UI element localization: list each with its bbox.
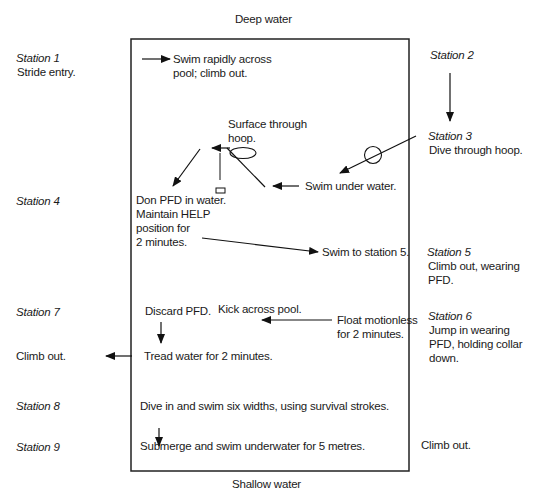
float-1: Float motionless xyxy=(337,313,418,327)
station-6-text-1: Jump in wearing xyxy=(429,323,510,337)
kick-across-pool: Kick across pool. xyxy=(218,302,302,316)
don-pfd-4: 2 minutes. xyxy=(136,235,187,249)
station-8-label: Station 8 xyxy=(16,399,60,413)
swim-rapidly-1: Swim rapidly across xyxy=(173,52,271,66)
arrow-swim-to-5 xyxy=(202,238,318,252)
hoop-station3 xyxy=(365,147,382,164)
discard-pfd: Discard PFD. xyxy=(145,304,211,318)
station-6-label: Station 6 xyxy=(428,309,472,323)
don-pfd-1: Don PFD in water. xyxy=(136,193,226,207)
station-1-label: Station 1 xyxy=(16,51,60,65)
climb-out-left: Climb out. xyxy=(16,349,66,363)
arrow-dive-hoop xyxy=(340,136,416,173)
line-surface-diagonal xyxy=(227,148,265,187)
don-pfd-3: position for xyxy=(136,221,190,235)
shallow-water-label: Shallow water xyxy=(232,477,301,491)
dive-six-widths: Dive in and swim six widths, using survi… xyxy=(140,399,389,413)
submerge-swim: Submerge and swim underwater for 5 metre… xyxy=(140,439,365,453)
station-3-label: Station 3 xyxy=(428,129,472,143)
station-6-text-2: PFD, holding collar xyxy=(429,337,522,351)
climb-out-right: Climb out. xyxy=(421,438,471,452)
surface-hoop-2: hoop. xyxy=(228,131,256,145)
station-7-label: Station 7 xyxy=(16,305,60,319)
tread-water: Tread water for 2 minutes. xyxy=(144,349,273,363)
station-3-text: Dive through hoop. xyxy=(429,143,523,157)
station-5-label: Station 5 xyxy=(427,245,471,259)
station-9-label: Station 9 xyxy=(16,440,60,454)
hoop-surface xyxy=(230,148,256,159)
deep-water-label: Deep water xyxy=(235,12,292,26)
don-pfd-2: Maintain HELP xyxy=(136,207,210,221)
station-5-text-1: Climb out, wearing xyxy=(428,259,520,273)
station-2-label: Station 2 xyxy=(430,48,474,62)
station-5-text-2: PFD. xyxy=(428,273,453,287)
swim-under-water: Swim under water. xyxy=(305,179,396,193)
station-1-text: Stride entry. xyxy=(17,65,76,79)
float-2: for 2 minutes. xyxy=(337,327,404,341)
station-4-label: Station 4 xyxy=(16,194,60,208)
station-6-text-3: down. xyxy=(429,351,459,365)
swim-to-station-5: Swim to station 5. xyxy=(322,245,409,259)
arrow-to-don-pfd xyxy=(173,149,200,186)
swim-rapidly-2: pool; climb out. xyxy=(173,66,247,80)
surface-hoop-1: Surface through xyxy=(228,117,307,131)
